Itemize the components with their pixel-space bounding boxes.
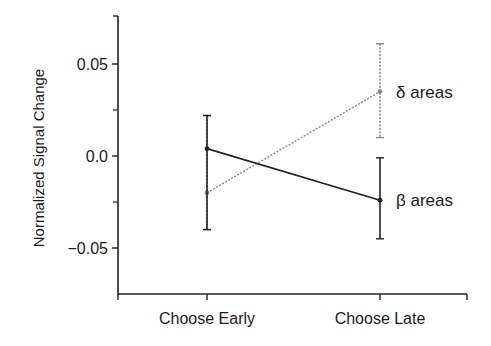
series-line: [207, 149, 380, 201]
y-tick-label: 0.05: [77, 56, 108, 73]
data-point: [205, 146, 210, 151]
y-tick-label: −0.05: [68, 240, 109, 257]
series-beta: β areas: [203, 116, 453, 239]
series-label: β areas: [396, 191, 453, 210]
y-axis-title: Normalized Signal Change: [30, 69, 47, 247]
series-line: [207, 92, 380, 193]
x-category-label: Choose Late: [335, 310, 426, 327]
chart: 0.050.0−0.05 Normalized Signal Change Ch…: [0, 0, 491, 346]
x-axis: Choose EarlyChoose Late: [118, 294, 467, 327]
data-point: [378, 89, 383, 94]
data-point: [378, 198, 383, 203]
series-label: δ areas: [396, 83, 453, 102]
y-axis: 0.050.0−0.05: [68, 16, 118, 295]
plot-area: δ areasβ areas: [203, 44, 453, 239]
x-category-label: Choose Early: [159, 310, 255, 327]
y-tick-label: 0.0: [86, 148, 108, 165]
